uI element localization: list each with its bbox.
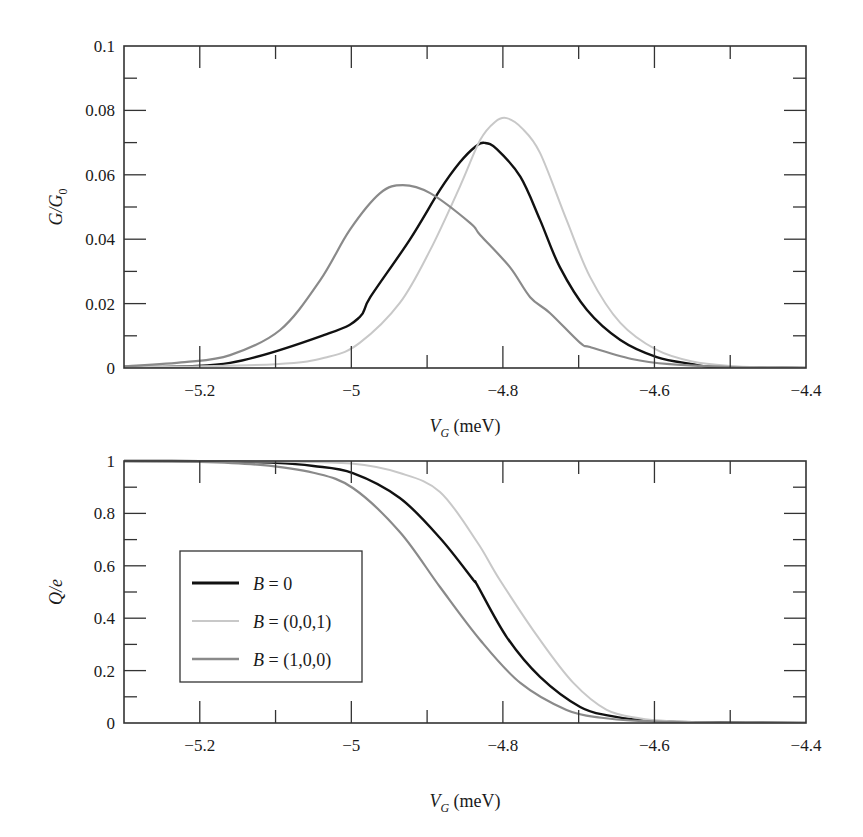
y-tick-label: 0.8	[94, 504, 115, 523]
y-tick-label: 1	[107, 452, 116, 471]
x-tick-label: −4.6	[639, 381, 670, 400]
x-tick-label: −4.8	[487, 381, 518, 400]
y-tick-label: 0.02	[85, 295, 115, 314]
legend-label-1: B = (0,0,1)	[253, 612, 331, 633]
y-tick-label: 0.06	[85, 166, 115, 185]
y-tick-label: 0	[107, 359, 116, 378]
y-tick-label: 0.1	[94, 37, 115, 56]
x-tick-label: −4.4	[791, 381, 822, 400]
x-tick-label: −5	[342, 381, 360, 400]
legend: B = 0B = (0,0,1)B = (1,0,0)	[180, 551, 362, 682]
y-tick-label: 0.4	[94, 609, 116, 628]
y-axis-label: G/G0	[46, 189, 70, 226]
x-tick-label: −5.2	[184, 736, 215, 755]
y-tick-label: 0	[107, 714, 116, 733]
legend-label-0: B = 0	[253, 574, 292, 594]
x-tick-label: −5.2	[184, 381, 215, 400]
series-group	[124, 118, 806, 368]
y-axis-label: Q/e	[46, 579, 66, 605]
x-tick-label: −5	[342, 736, 360, 755]
conductance-plot: −5.2−5−4.8−4.6−4.400.020.040.060.080.1VG…	[46, 37, 822, 440]
series-line-2	[124, 185, 806, 368]
y-tick-label: 0.2	[94, 662, 115, 681]
x-axis-label: VG (meV)	[429, 791, 500, 815]
x-tick-label: −4.8	[487, 736, 518, 755]
figure: −5.2−5−4.8−4.6−4.400.020.040.060.080.1VG…	[0, 0, 863, 837]
y-tick-label: 0.04	[85, 230, 115, 249]
plot-frame	[124, 46, 806, 368]
x-tick-label: −4.6	[639, 736, 670, 755]
charge-plot: −5.2−5−4.8−4.6−4.400.20.40.60.81VG (meV)…	[46, 452, 822, 815]
y-tick-label: 0.6	[94, 557, 115, 576]
legend-label-2: B = (1,0,0)	[253, 650, 331, 671]
x-tick-label: −4.4	[791, 736, 822, 755]
y-tick-label: 0.08	[85, 101, 115, 120]
x-axis-label: VG (meV)	[429, 416, 500, 440]
